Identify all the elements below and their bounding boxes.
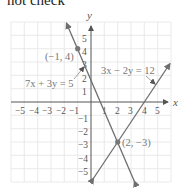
svg-text:−5: −5 (78, 167, 88, 177)
y-tick-labels: 5 4 3 2 1 −1 −2 −3 −4 −5 (78, 34, 88, 177)
svg-text:−2: −2 (56, 106, 66, 116)
point-2-neg3 (115, 139, 120, 144)
svg-text:3: 3 (128, 106, 133, 116)
svg-text:2: 2 (82, 74, 87, 84)
svg-text:−1: −1 (78, 114, 88, 124)
equation-label-line1: 7x + 3y = 5 (25, 78, 74, 89)
svg-text:−2: −2 (78, 127, 88, 137)
svg-text:−4: −4 (78, 154, 88, 164)
point-label-neg1-4: (−1, 4) (45, 51, 74, 63)
point-label-2-neg3: (2, −3) (122, 137, 151, 149)
svg-text:5: 5 (155, 106, 160, 116)
point-neg1-4 (75, 46, 80, 51)
y-axis-label: y (86, 9, 92, 21)
svg-text:−3: −3 (42, 106, 52, 116)
line-3x-minus-2y-eq-12 (94, 64, 170, 179)
coordinate-plane: x y −5 −4 −3 −2 −1 1 2 3 4 5 5 4 3 2 1 −… (0, 0, 188, 188)
svg-text:5: 5 (82, 34, 87, 44)
svg-text:4: 4 (142, 106, 147, 116)
leader-line2 (146, 76, 155, 84)
svg-text:1: 1 (82, 87, 87, 97)
x-axis-label: x (172, 96, 178, 108)
svg-text:−4: −4 (29, 106, 39, 116)
equation-label-line2: 3x − 2y = 12 (101, 65, 155, 76)
svg-text:−3: −3 (78, 140, 88, 150)
svg-text:−5: −5 (15, 106, 25, 116)
svg-text:2: 2 (115, 106, 120, 116)
svg-text:4: 4 (82, 47, 87, 57)
